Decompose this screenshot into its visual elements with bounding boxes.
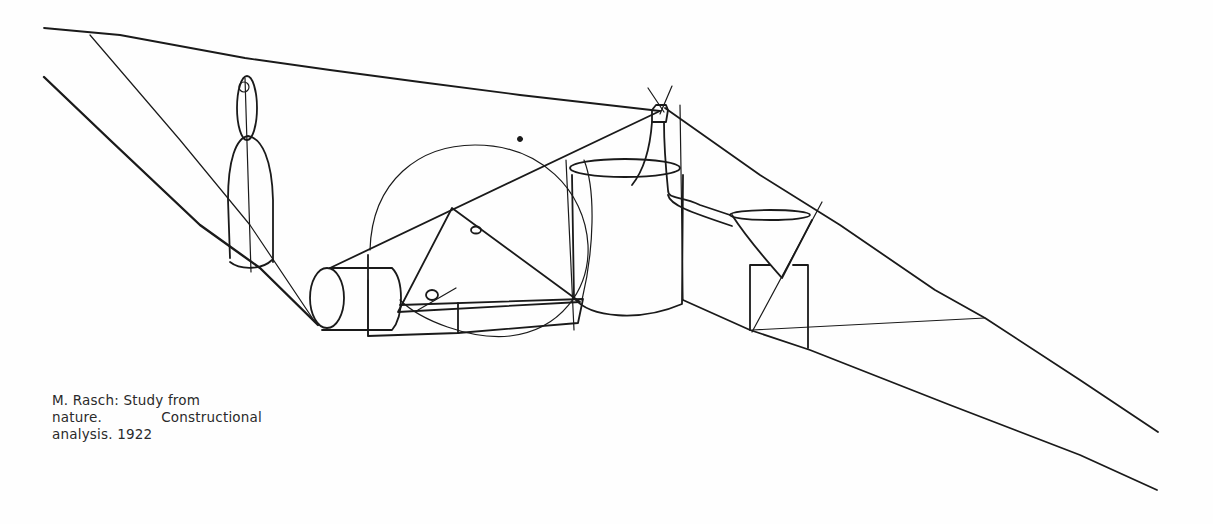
sphere-dot — [518, 137, 523, 142]
carafe-right — [664, 122, 730, 215]
constructional-analysis-drawing — [0, 0, 1213, 524]
caption-line-2-a: nature. — [52, 409, 102, 426]
caption-line-2-b: Constructional — [161, 409, 262, 426]
diagonal-guide-line — [90, 35, 315, 322]
book-page: M. Rasch: Study from nature. Constructio… — [0, 0, 1213, 524]
carafe-cross-a — [648, 88, 664, 112]
cylinder-end-ellipse — [310, 268, 344, 328]
funnel-axis — [752, 202, 822, 332]
small-ring-lower — [426, 290, 438, 300]
caption-line-1: M. Rasch: Study from — [52, 392, 272, 409]
cube-base-line — [752, 318, 985, 330]
funnel-cone — [732, 215, 812, 278]
sphere-chord — [330, 111, 660, 268]
figure-caption: M. Rasch: Study from nature. Constructio… — [52, 392, 272, 443]
bottle-axis — [245, 78, 251, 272]
left-ground-line — [44, 77, 318, 325]
right-upper-line — [665, 108, 1158, 432]
cube-outline — [750, 265, 808, 348]
top-perspective-line — [44, 28, 660, 111]
cylinder-body — [322, 268, 401, 330]
funnel-rim — [730, 210, 810, 220]
funnel-spout — [668, 195, 732, 226]
small-ring-upper — [471, 227, 481, 234]
caption-line-2: nature. Constructional — [52, 409, 262, 426]
caption-line-3: analysis. 1922 — [52, 426, 272, 443]
jar-body — [572, 175, 683, 315]
bottle-cap — [239, 82, 249, 92]
